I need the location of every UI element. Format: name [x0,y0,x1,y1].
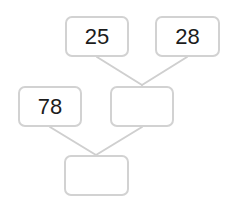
number-box-top-right: 28 [155,16,220,57]
connector-top-left-to-mid-right [97,57,142,85]
number-value: 28 [175,26,199,48]
number-box-top-left: 25 [65,16,129,57]
number-value: 78 [38,96,62,118]
answer-box-bottom[interactable] [64,155,129,196]
number-value: 25 [85,26,109,48]
connector-top-right-to-mid-right [142,57,187,85]
connector-mid-left-to-bottom [50,127,96,155]
answer-box-mid-right[interactable] [110,86,174,127]
number-tree-diagram: 25 28 78 [0,0,230,211]
connector-mid-right-to-bottom [96,127,142,155]
number-box-mid-left: 78 [18,86,82,127]
